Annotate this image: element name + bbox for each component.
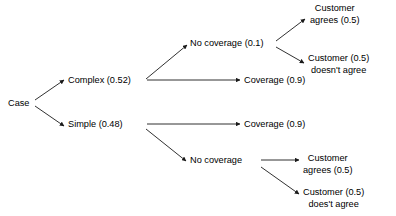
node-simple-coverage-label: Coverage (0.9) [244, 119, 305, 129]
leaf-customer-disagrees-top-line2: doesn't agree [308, 65, 369, 77]
decision-tree-diagram: Case Complex (0.52) Simple (0.48) No cov… [0, 0, 396, 216]
leaf-customer-disagrees-bottom-line2: does't agree [303, 199, 364, 211]
node-complex-label: Complex (0.52) [68, 75, 131, 85]
leaf-customer-disagrees-bottom-line1: Customer (0.5) [303, 187, 364, 197]
node-case[interactable]: Case [8, 98, 29, 110]
node-case-label: Case [8, 98, 29, 108]
node-simple-label: Simple (0.48) [68, 119, 123, 129]
node-simple-no-coverage-label: No coverage [190, 155, 242, 165]
node-complex[interactable]: Complex (0.52) [68, 75, 131, 87]
leaf-customer-agrees-bottom-line2: agrees (0.5) [303, 165, 353, 177]
node-complex-coverage[interactable]: Coverage (0.9) [244, 75, 305, 87]
edge-no-coverage-to-customer-disagrees [276, 47, 304, 63]
edge-no-coverage-to-customer-agrees [276, 19, 305, 41]
edge-simple-to-no-coverage [146, 129, 186, 161]
leaf-customer-agrees-top-line1: Customer [315, 3, 355, 13]
node-complex-no-coverage-label: No coverage (0.1) [190, 38, 264, 48]
leaf-customer-agrees-bottom-line1: Customer [308, 153, 348, 163]
edge-case-to-simple [35, 106, 64, 126]
leaf-customer-disagrees-top-line1: Customer (0.5) [308, 53, 369, 63]
leaf-customer-agrees-bottom[interactable]: Customer agrees (0.5) [303, 153, 353, 176]
leaf-customer-disagrees-bottom[interactable]: Customer (0.5) does't agree [303, 187, 364, 210]
leaf-customer-disagrees-top[interactable]: Customer (0.5) doesn't agree [308, 53, 369, 76]
edge-simple-no-coverage-to-customer-disagrees [261, 167, 299, 194]
node-simple-coverage[interactable]: Coverage (0.9) [244, 119, 305, 131]
leaf-customer-agrees-top-line2: agrees (0.5) [310, 15, 360, 27]
node-simple-no-coverage[interactable]: No coverage [190, 155, 242, 167]
node-complex-no-coverage[interactable]: No coverage (0.1) [190, 38, 264, 50]
edge-case-to-complex [35, 80, 64, 100]
leaf-customer-agrees-top[interactable]: Customer agrees (0.5) [310, 3, 360, 26]
node-complex-coverage-label: Coverage (0.9) [244, 75, 305, 85]
edge-layer [0, 0, 396, 216]
edge-complex-to-no-coverage [146, 45, 187, 79]
node-simple[interactable]: Simple (0.48) [68, 119, 123, 131]
